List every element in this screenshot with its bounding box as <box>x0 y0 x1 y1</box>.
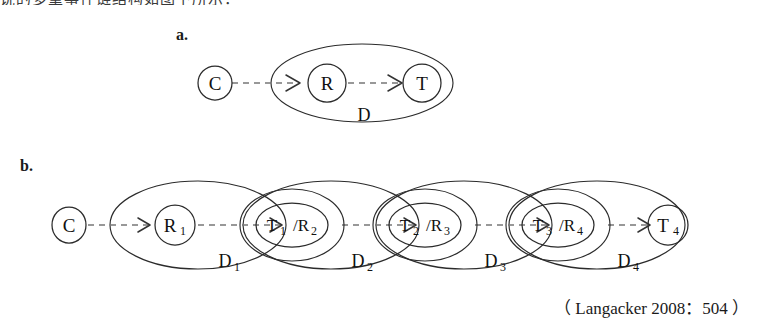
node-t-label: T <box>416 73 428 94</box>
panel-b-label: b. <box>20 157 33 175</box>
domain-label-d1: D <box>219 251 232 271</box>
domain-label-d3: D <box>485 251 498 271</box>
cut-off-caption-text: 说的多重事件链结构如图下所示： <box>0 0 757 5</box>
node-t3r4-subscript-1: 3 <box>546 224 552 238</box>
node-t1r2-subscript-1: 1 <box>280 224 286 238</box>
domain-sub-d3: 3 <box>500 260 506 274</box>
node-t3r4-label-r: /R <box>559 216 576 235</box>
domain-sub-d2: 2 <box>367 260 373 274</box>
node-t1r2-subscript-2: 2 <box>311 224 317 238</box>
diagram-panel-a: C R T D <box>180 38 480 138</box>
node-t2r3-label-r: /R <box>426 216 443 235</box>
node-t4-subscript: 4 <box>673 224 679 238</box>
diagram-panel-b: C R 1 T 1 /R 2 T 2 /R 3 T 3 /R 4 T 4 D 1… <box>20 178 720 278</box>
node-t2r3-subscript-1: 2 <box>413 224 419 238</box>
domain-label-d: D <box>358 105 371 125</box>
node-r1-subscript: 1 <box>180 224 186 238</box>
domain-label-d2: D <box>352 251 365 271</box>
node-r-label: R <box>321 73 334 94</box>
node-t3r4-label-t: T <box>533 216 544 235</box>
figure-root: 说的多重事件链结构如图下所示： a. C R T D b. <box>0 0 757 325</box>
node-t3r4-subscript-2: 4 <box>577 224 583 238</box>
node-t4-label: T <box>657 215 669 236</box>
source-citation: （ Langacker 2008：504 ） <box>554 294 749 319</box>
domain-sub-d1: 1 <box>234 260 240 274</box>
node-c-label: C <box>63 215 76 236</box>
node-t2r3-subscript-2: 3 <box>444 224 450 238</box>
node-t1r2-label-t: T <box>267 216 278 235</box>
domain-label-d4: D <box>618 251 631 271</box>
domain-sub-d4: 4 <box>633 260 639 274</box>
node-t2r3-label-t: T <box>400 216 411 235</box>
node-r1-label: R <box>164 215 177 236</box>
node-c-label: C <box>209 73 222 94</box>
node-t1r2-label-r: /R <box>293 216 310 235</box>
